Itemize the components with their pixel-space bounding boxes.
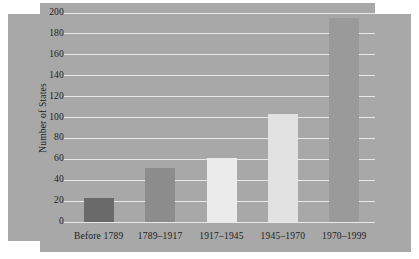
y-axis-tick-label: 100 — [49, 113, 64, 123]
y-axis-tick-mark — [64, 75, 68, 76]
x-axis-tick-label: 1917–1945 — [199, 231, 244, 241]
y-axis-tick-label: 160 — [49, 50, 64, 60]
bar — [207, 158, 237, 222]
y-axis-tick-mark — [64, 117, 68, 118]
x-axis-tick-label: 1970–1999 — [322, 231, 367, 241]
y-axis-tick-mark — [64, 54, 68, 55]
x-axis-tick-label: 1789–1917 — [138, 231, 183, 241]
y-axis-tick-labels: 020406080100120140160180200 — [36, 13, 64, 222]
y-axis-tick-mark — [64, 201, 68, 202]
y-axis-title-wrapper: Number of States — [2, 14, 28, 222]
chart-background-right-panel — [375, 14, 411, 252]
bar — [268, 114, 298, 222]
x-axis-tick-label: 1945–1970 — [261, 231, 306, 241]
bar-chart-figure: Number of States 02040608010012014016018… — [0, 0, 419, 259]
y-axis-tick-mark — [64, 33, 68, 34]
y-axis-tick-mark — [64, 159, 68, 160]
y-axis-tick-mark — [64, 13, 68, 14]
y-axis-tick-mark — [64, 138, 68, 139]
plot-area — [68, 13, 375, 222]
y-axis-tick-label: 20 — [54, 196, 64, 206]
y-axis-tick-label: 120 — [49, 92, 64, 102]
y-axis-tick-mark — [64, 180, 68, 181]
bar — [329, 18, 359, 222]
x-axis-tick-labels: Before 17891789–19171917–19451945–197019… — [68, 231, 375, 249]
y-axis-tick-label: 180 — [49, 29, 64, 39]
y-axis-tick-label: 200 — [49, 8, 64, 18]
y-axis-tick-label: 140 — [49, 71, 64, 81]
y-axis-tick-label: 80 — [54, 134, 64, 144]
bar — [145, 168, 175, 222]
y-axis-tick-label: 40 — [54, 175, 64, 185]
gridline — [68, 13, 375, 14]
bar — [84, 198, 114, 222]
y-axis-tick-mark — [64, 96, 68, 97]
y-axis-tick-mark — [64, 222, 68, 223]
y-axis-tick-label: 60 — [54, 155, 64, 165]
x-axis-tick-label: Before 1789 — [74, 231, 123, 241]
